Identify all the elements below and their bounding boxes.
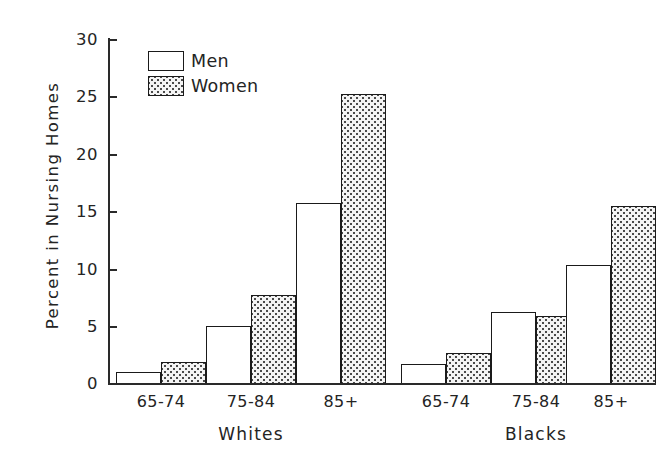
legend-swatch-women-icon (148, 76, 184, 96)
x-group-label-whites: Whites (151, 424, 351, 444)
y-tick-30 (108, 39, 117, 41)
x-group-label-blacks: Blacks (436, 424, 636, 444)
legend-label-women: Women (191, 76, 258, 96)
bar-blacks-65-74-men (401, 364, 446, 385)
bar-blacks-85plus-women (611, 206, 656, 385)
bar-blacks-75-84-men (491, 312, 536, 385)
x-axis-line (108, 383, 656, 385)
y-tick-10 (108, 269, 117, 271)
y-tick-label-30: 30 (56, 30, 98, 49)
x-label-whites-75-84: 75-84 (206, 392, 296, 411)
bar-whites-65-74-women (161, 362, 206, 385)
bar-whites-85plus-men (296, 203, 341, 385)
y-tick-label-25: 25 (56, 87, 98, 106)
y-tick-label-10: 10 (56, 260, 98, 279)
legend-item-women: Women (148, 73, 258, 98)
bar-blacks-65-74-women (446, 353, 491, 385)
y-tick-25 (108, 96, 117, 98)
y-tick-20 (108, 154, 117, 156)
y-tick-label-5: 5 (56, 317, 98, 336)
y-tick-15 (108, 211, 117, 213)
x-label-blacks-65-74: 65-74 (401, 392, 491, 411)
legend: Men Women (148, 48, 258, 98)
legend-label-men: Men (191, 51, 229, 71)
y-tick-label-20: 20 (56, 145, 98, 164)
y-tick-label-15: 15 (56, 202, 98, 221)
bar-blacks-85plus-men (566, 265, 611, 385)
y-tick-label-0: 0 (56, 374, 98, 393)
y-tick-5 (108, 326, 117, 328)
x-label-whites-65-74: 65-74 (116, 392, 206, 411)
legend-item-men: Men (148, 48, 258, 73)
x-label-blacks-85plus: 85+ (566, 392, 656, 411)
bar-whites-85plus-women (341, 94, 386, 385)
x-label-whites-85plus: 85+ (296, 392, 386, 411)
bar-whites-75-84-men (206, 326, 251, 385)
bar-whites-75-84-women (251, 295, 296, 385)
nursing-home-bar-chart: Percent in Nursing Homes 30 25 20 15 10 … (0, 0, 671, 471)
legend-swatch-men-icon (148, 51, 184, 71)
